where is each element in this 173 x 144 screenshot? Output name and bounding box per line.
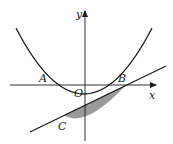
origin-label: O bbox=[74, 87, 83, 100]
x-axis-label: x bbox=[149, 89, 156, 102]
y-axis-label: y bbox=[75, 8, 83, 21]
line-cb bbox=[30, 66, 166, 132]
point-c-label: C bbox=[58, 120, 67, 133]
point-b-label: B bbox=[117, 72, 126, 85]
parabola-diagram: y x O A B C bbox=[0, 0, 173, 144]
diagram-canvas: y x O A B C bbox=[0, 0, 173, 144]
point-a-label: A bbox=[38, 72, 47, 85]
parabola-curve bbox=[16, 28, 152, 94]
